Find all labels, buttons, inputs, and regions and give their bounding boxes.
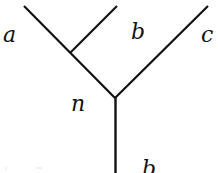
tree-lines — [0, 0, 218, 173]
tree-diagram: a b c n b — [0, 0, 218, 173]
scan-artifact — [36, 167, 42, 169]
label-a: a — [3, 24, 16, 46]
scan-artifact — [5, 167, 7, 170]
label-c: c — [201, 24, 213, 46]
edge-b — [70, 6, 117, 53]
label-b: b — [131, 21, 145, 43]
label-bottom-partial: b — [142, 158, 156, 173]
edge-c — [115, 6, 208, 98]
label-n: n — [71, 93, 85, 115]
